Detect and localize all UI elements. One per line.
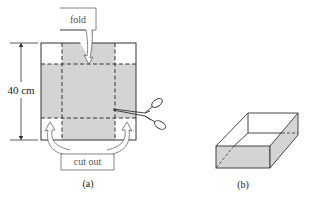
diagram-canvas: 40 cm fold cut out (a) [0,0,309,199]
dimension-label: 40 cm [7,84,35,96]
figure-b: (b) [216,113,298,191]
fold-label: fold [70,14,86,25]
cut-out-label: cut out [74,156,102,167]
box-front-face [216,146,270,168]
figure-a: 40 cm fold cut out (a) [7,8,167,190]
caption-b: (b) [237,179,249,191]
box-right-face [270,113,298,168]
caption-a: (a) [82,178,93,190]
